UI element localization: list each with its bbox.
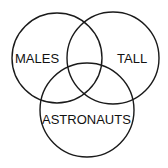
set-label-males: MALES — [15, 51, 59, 66]
set-label-tall: TALL — [117, 51, 147, 66]
set-circle-astronauts — [40, 63, 134, 157]
venn-diagram: MALES TALL ASTRONAUTS — [0, 0, 168, 168]
set-label-astronauts: ASTRONAUTS — [42, 112, 131, 127]
